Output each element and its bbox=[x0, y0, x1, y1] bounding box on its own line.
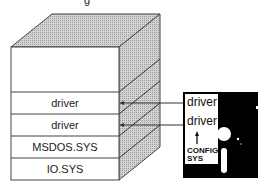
memory-stack: driver driver MSDOS.SYS IO.SYS bbox=[11, 14, 160, 180]
disk-label-driver-1: driver bbox=[187, 95, 217, 109]
diagram-canvas: g driver driver MSDOS.SYS IO.SYS bbox=[0, 0, 275, 190]
floppy-disk: driver driver CONFIG SYS bbox=[183, 92, 259, 178]
disk-hub-hole bbox=[217, 127, 231, 141]
disk-label-sys: SYS bbox=[187, 154, 204, 163]
layer-io-sys: IO.SYS bbox=[47, 163, 84, 175]
layer-driver-1: driver bbox=[51, 97, 79, 109]
disk-read-window bbox=[221, 148, 227, 173]
layer-msdos-sys: MSDOS.SYS bbox=[32, 141, 97, 153]
layer-driver-2: driver bbox=[51, 119, 79, 131]
title-fragment: g bbox=[84, 0, 90, 6]
disk-label-driver-2: driver bbox=[187, 114, 217, 128]
